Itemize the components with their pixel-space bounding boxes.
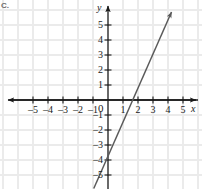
x-tick-label-3: 3 <box>151 105 156 115</box>
y-tick-label-4: 4 <box>98 35 103 45</box>
x-tick-label--5: –5 <box>28 105 38 115</box>
axes <box>8 6 198 189</box>
x-axis-label: x <box>191 104 195 114</box>
graph-figure: C. <box>0 0 202 189</box>
y-tick-label-3: 3 <box>98 50 103 60</box>
x-tick-label--3: –3 <box>58 105 68 115</box>
x-tick-label-5: 5 <box>181 105 186 115</box>
x-tick-label--4: –4 <box>43 105 53 115</box>
y-tick-label-1: 1 <box>98 80 103 90</box>
y-tick-label--5: –5 <box>93 170 103 180</box>
x-tick-label-2: 2 <box>136 105 141 115</box>
option-letter-label: C. <box>1 1 9 11</box>
origin-label: 0 <box>98 103 104 114</box>
x-tick-label-4: 4 <box>166 105 171 115</box>
x-tick-label--2: –2 <box>73 105 83 115</box>
y-tick-label--3: –3 <box>93 140 103 150</box>
y-tick-label-5: 5 <box>98 20 103 30</box>
y-tick-label--4: –4 <box>93 155 103 165</box>
y-tick-label--2: –2 <box>93 125 103 135</box>
y-axis-label: y <box>97 3 101 13</box>
y-tick-label-2: 2 <box>98 65 103 75</box>
x-tick-label-1: 1 <box>121 105 126 115</box>
